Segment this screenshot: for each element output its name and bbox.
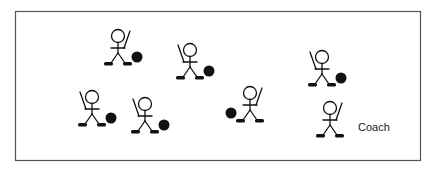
ball (106, 113, 117, 124)
ball (204, 66, 215, 77)
head (324, 102, 337, 115)
head (184, 44, 197, 57)
right-skate (97, 123, 106, 127)
ball (336, 73, 347, 84)
drill-diagram: Coach (0, 0, 434, 169)
left-skate (78, 123, 87, 127)
left-skate (131, 130, 140, 134)
left-skate (316, 134, 325, 138)
left-skate (104, 62, 113, 66)
rink-border (16, 12, 421, 161)
ball (159, 120, 170, 131)
left-skate (176, 76, 185, 80)
ball (226, 108, 237, 119)
head (112, 30, 125, 43)
left-skate (236, 119, 245, 123)
right-skate (335, 134, 344, 138)
head (244, 87, 257, 100)
right-skate (327, 83, 336, 87)
right-skate (150, 130, 159, 134)
coach-label: Coach (358, 121, 390, 133)
right-skate (195, 76, 204, 80)
ball (132, 52, 143, 63)
head (316, 51, 329, 64)
right-skate (255, 119, 264, 123)
head (139, 98, 152, 111)
right-skate (123, 62, 132, 66)
head (86, 91, 99, 104)
left-skate (308, 83, 317, 87)
